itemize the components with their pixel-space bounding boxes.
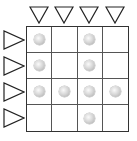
- ball-icon: [110, 86, 121, 97]
- grid-cell-r2-c2[interactable]: [52, 53, 77, 79]
- ball-icon: [59, 86, 70, 97]
- ball-icon: [84, 113, 95, 124]
- grid-cell-r4-c1[interactable]: [27, 105, 52, 131]
- ball-icon: [84, 34, 95, 45]
- row-marker-3-triangle-icon[interactable]: [3, 82, 25, 102]
- grid-cell-r3-c4[interactable]: [103, 79, 128, 105]
- grid-cell-r4-c2[interactable]: [52, 105, 77, 131]
- grid-cell-r1-c4[interactable]: [103, 27, 128, 53]
- grid-cell-r4-c4[interactable]: [103, 105, 128, 131]
- grid-cell-r2-c4[interactable]: [103, 53, 128, 79]
- ball-icon: [34, 34, 45, 45]
- ball-icon: [84, 86, 95, 97]
- column-marker-1-triangle-icon[interactable]: [29, 6, 49, 24]
- column-marker-2-triangle-icon[interactable]: [54, 6, 74, 24]
- grid-cell-r4-c3[interactable]: [78, 105, 103, 131]
- column-marker-4-triangle-icon[interactable]: [105, 6, 125, 24]
- ball-icon: [84, 60, 95, 71]
- game-grid: [26, 26, 129, 132]
- row-marker-4-triangle-icon[interactable]: [3, 108, 25, 128]
- grid-cell-r3-c3[interactable]: [78, 79, 103, 105]
- row-marker-1-triangle-icon[interactable]: [3, 30, 25, 50]
- grid-cell-r2-c1[interactable]: [27, 53, 52, 79]
- grid-cell-r3-c2[interactable]: [52, 79, 77, 105]
- ball-icon: [34, 60, 45, 71]
- grid-cell-r1-c3[interactable]: [78, 27, 103, 53]
- ball-icon: [34, 86, 45, 97]
- column-marker-3-triangle-icon[interactable]: [79, 6, 99, 24]
- grid-cell-r1-c1[interactable]: [27, 27, 52, 53]
- grid-cell-r2-c3[interactable]: [78, 53, 103, 79]
- row-marker-2-triangle-icon[interactable]: [3, 56, 25, 76]
- grid-cell-r3-c1[interactable]: [27, 79, 52, 105]
- grid-cell-r1-c2[interactable]: [52, 27, 77, 53]
